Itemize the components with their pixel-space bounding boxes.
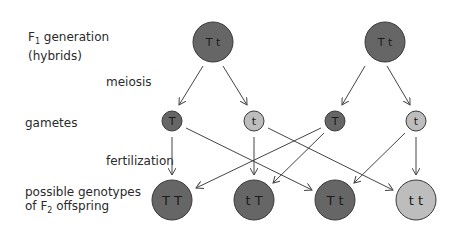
- arrow-f1b-to-gamete-T: [342, 66, 365, 105]
- f2-offspring-3-genotype: T t: [325, 193, 343, 208]
- f2-offspring-2-genotype: t T: [245, 193, 262, 208]
- gamete-3: T: [325, 111, 345, 131]
- arrow-T2-to-tT: [273, 133, 324, 183]
- f2-offspring-1: T T: [152, 180, 192, 220]
- gamete-4: t: [406, 111, 426, 131]
- punnett-diagram: T t T t T t T t T T t T T t t t: [0, 0, 460, 233]
- arrow-t2-to-Tt: [354, 133, 405, 183]
- f1-parent-2: T t: [365, 22, 405, 62]
- gamete-3-allele: T: [331, 115, 339, 128]
- f1-parent-1-genotype: T t: [205, 36, 221, 49]
- gamete-1-allele: T: [168, 115, 176, 128]
- gamete-4-allele: t: [414, 115, 419, 128]
- gamete-1: T: [162, 111, 182, 131]
- gamete-2-allele: t: [252, 115, 257, 128]
- f2-offspring-1-genotype: T T: [161, 193, 182, 208]
- arrow-T2-to-TT: [196, 128, 321, 188]
- f1-parent-2-genotype: T t: [377, 36, 393, 49]
- fertilization-arrows: [172, 128, 416, 190]
- f2-offspring-4-genotype: t t: [409, 193, 423, 208]
- arrow-f1a-to-gamete-t: [223, 66, 247, 105]
- arrow-f1a-to-gamete-T: [179, 66, 203, 105]
- gamete-2: t: [244, 111, 264, 131]
- f2-offspring-3: T t: [315, 180, 355, 220]
- f2-offspring-2: t T: [234, 180, 274, 220]
- arrow-f1b-to-gamete-t: [387, 66, 410, 105]
- f1-parent-1: T t: [193, 22, 233, 62]
- meiosis-arrows: [179, 66, 410, 105]
- f2-offspring-4: t t: [396, 180, 436, 220]
